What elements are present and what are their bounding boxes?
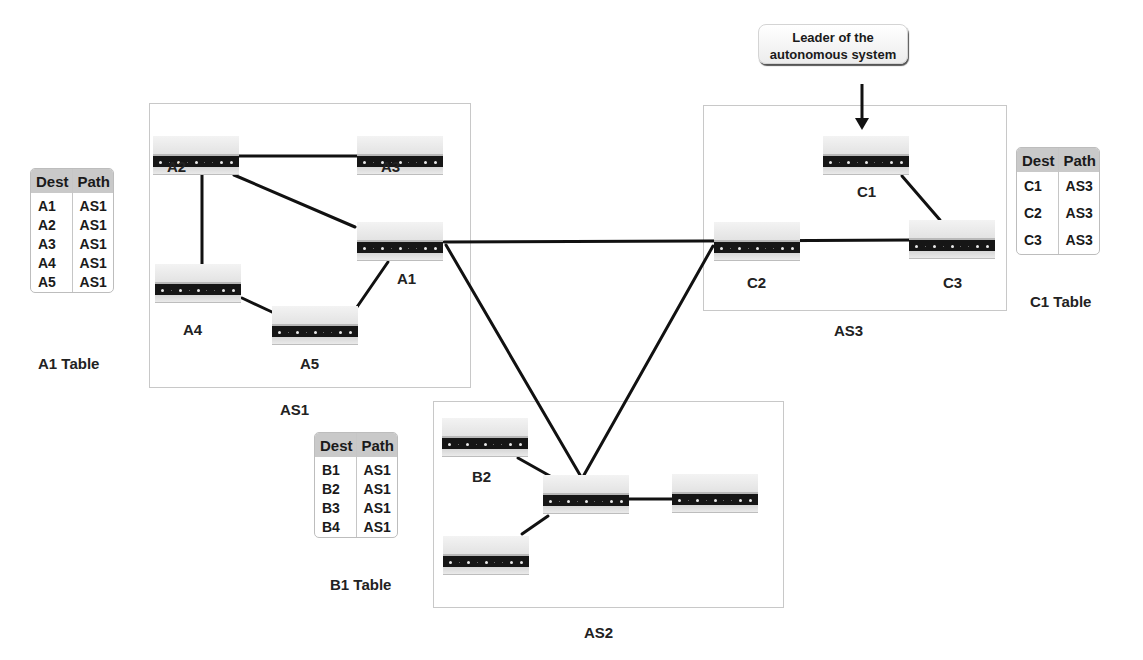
cell-path: AS3	[1058, 200, 1099, 227]
router-c2[interactable]	[714, 222, 800, 262]
port-led-icon	[197, 289, 200, 292]
port-led-icon	[857, 162, 858, 163]
port-led-icon	[519, 443, 522, 446]
cell-path: AS1	[72, 216, 113, 235]
port-led-icon	[559, 501, 560, 502]
port-led-icon	[791, 247, 794, 250]
router-b4[interactable]	[672, 474, 758, 514]
router-casing	[153, 136, 239, 154]
table-row: A3AS1	[31, 235, 113, 254]
port-led-icon	[520, 561, 523, 564]
port-led-icon	[222, 289, 225, 292]
router-casing	[442, 418, 528, 436]
port-led-icon	[501, 444, 502, 445]
cell-path: AS1	[356, 499, 397, 518]
port-led-icon	[890, 161, 893, 164]
port-led-icon	[720, 247, 723, 250]
port-led-icon	[484, 443, 487, 446]
port-led-icon	[739, 499, 742, 502]
port-led-icon	[706, 500, 707, 501]
cell-path: AS1	[356, 457, 397, 480]
router-b3[interactable]	[443, 536, 529, 576]
router-a2[interactable]	[153, 136, 239, 176]
router-port-panel	[672, 492, 758, 505]
port-led-icon	[986, 245, 989, 248]
port-led-icon	[373, 162, 374, 163]
port-led-icon	[900, 161, 903, 164]
port-led-icon	[296, 331, 299, 334]
label-c1: C1	[857, 183, 876, 200]
table-row: A4AS1	[31, 254, 113, 273]
table-row: A1AS1	[31, 193, 113, 216]
callout-line1: Leader of the	[759, 29, 907, 46]
routing-table-c1: Dest Path C1AS3C2AS3C3AS3	[1016, 147, 1100, 255]
router-b1[interactable]	[543, 475, 629, 515]
router-port-panel	[272, 324, 358, 337]
router-base	[443, 567, 529, 575]
port-led-icon	[206, 290, 207, 291]
table-caption-b1: B1 Table	[330, 576, 391, 593]
col-header-path: Path	[72, 169, 113, 193]
port-led-icon	[416, 248, 417, 249]
port-led-icon	[730, 248, 731, 249]
router-casing	[823, 136, 909, 154]
port-led-icon	[189, 290, 190, 291]
table-row: C3AS3	[1017, 227, 1099, 254]
link-a4-a5	[242, 298, 272, 312]
cell-dest: A2	[31, 216, 72, 235]
port-led-icon	[765, 248, 766, 249]
port-led-icon	[688, 500, 689, 501]
port-led-icon	[494, 562, 495, 563]
router-base	[714, 253, 800, 261]
port-led-icon	[976, 245, 979, 248]
link-a5-a1	[357, 262, 388, 307]
port-led-icon	[749, 499, 752, 502]
routing-table-a1: Dest Path A1AS1A2AS1A3AS1A4AS1A5AS1	[30, 168, 114, 293]
link-c2-b1	[584, 246, 713, 475]
port-led-icon	[756, 247, 759, 250]
port-led-icon	[502, 562, 503, 563]
port-led-icon	[408, 248, 409, 249]
router-a5[interactable]	[272, 306, 358, 346]
router-a4[interactable]	[155, 264, 241, 304]
link-layer	[0, 0, 1143, 660]
table-row: A2AS1	[31, 216, 113, 235]
router-casing	[155, 264, 241, 282]
table-row: B3AS1	[315, 499, 397, 518]
port-led-icon	[434, 161, 437, 164]
router-b2[interactable]	[442, 418, 528, 458]
port-led-icon	[925, 246, 926, 247]
cell-dest: A4	[31, 254, 72, 273]
leader-arrow	[855, 84, 869, 130]
port-led-icon	[610, 500, 613, 503]
port-led-icon	[731, 500, 732, 501]
port-led-icon	[161, 289, 164, 292]
router-casing	[272, 306, 358, 324]
port-led-icon	[951, 245, 954, 248]
router-port-panel	[442, 436, 528, 449]
port-led-icon	[171, 290, 172, 291]
label-c3: C3	[943, 274, 962, 291]
table-row: A5AS1	[31, 273, 113, 292]
port-led-icon	[331, 332, 332, 333]
cell-path: AS1	[72, 193, 113, 216]
port-led-icon	[381, 247, 384, 250]
router-casing	[672, 474, 758, 492]
port-led-icon	[882, 162, 883, 163]
cell-dest: A1	[31, 193, 72, 216]
router-c1[interactable]	[823, 136, 909, 176]
link-b2-b1	[518, 458, 550, 476]
router-base	[357, 253, 443, 261]
port-led-icon	[230, 161, 233, 164]
label-a4: A4	[183, 321, 202, 338]
cell-path: AS1	[356, 518, 397, 537]
port-led-icon	[214, 290, 215, 291]
port-led-icon	[363, 161, 366, 164]
port-led-icon	[204, 162, 205, 163]
port-led-icon	[424, 247, 427, 250]
router-a1[interactable]	[357, 222, 443, 262]
router-c3[interactable]	[909, 220, 995, 260]
cell-dest: A5	[31, 273, 72, 292]
port-led-icon	[232, 289, 235, 292]
port-led-icon	[434, 247, 437, 250]
